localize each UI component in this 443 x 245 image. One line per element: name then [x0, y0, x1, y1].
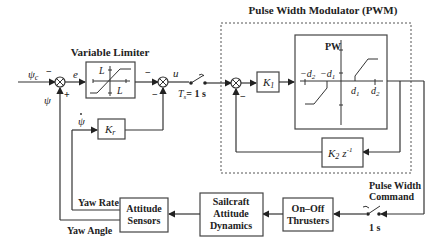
sampler-switch-1	[189, 74, 207, 85]
psi-c-input: ψc −	[28, 66, 52, 82]
summing-junction-1	[55, 77, 65, 87]
kr-block: Kr	[98, 119, 125, 139]
svg-text:Attitude: Attitude	[213, 208, 249, 219]
svg-text:Sensors: Sensors	[128, 215, 161, 226]
svg-text:Attitude: Attitude	[126, 203, 162, 214]
summing-junction-2	[158, 77, 168, 87]
attitude-sensors-block: Attitude Sensors	[120, 198, 168, 232]
sample-time-label: Ts= 1 s	[178, 88, 206, 101]
psi-label: ψ	[44, 94, 51, 106]
e-label: e	[73, 68, 78, 80]
svg-text:PW: PW	[325, 41, 341, 52]
variable-limiter-title: Variable Limiter	[71, 46, 150, 58]
pulse-width-label-2: Command	[369, 191, 414, 202]
svg-text:Thrusters: Thrusters	[287, 215, 329, 226]
minus-sign-2: −	[152, 89, 158, 100]
svg-text:−: −	[46, 66, 52, 77]
svg-text:ψc: ψc	[28, 68, 39, 82]
pulse-width-label-1: Pulse Width	[369, 180, 422, 191]
yaw-rate-label: Yaw Rate	[78, 197, 119, 208]
svg-text:Dynamics: Dynamics	[210, 220, 252, 231]
psi-dot-label: ψ	[78, 115, 85, 127]
switch-2-time: 1 s	[369, 222, 381, 233]
pwm-title: Pulse Width Modulator (PWM)	[249, 4, 398, 17]
on-off-thrusters-block: On–Off Thrusters	[283, 198, 333, 231]
block-diagram: Variable Limiter Pulse Width Modulator (…	[0, 0, 443, 245]
pw-deadzone-block: PW −d2 −d1 d1 d2	[295, 35, 387, 129]
svg-text:On–Off: On–Off	[292, 203, 325, 214]
svg-text:Sailcraft: Sailcraft	[213, 196, 250, 207]
plus-sign: +	[64, 89, 70, 100]
summing-junction-3	[231, 78, 241, 88]
svg-text:L: L	[98, 65, 105, 76]
svg-text:L: L	[116, 85, 123, 96]
sailcraft-dynamics-block: Sailcraft Attitude Dynamics	[200, 193, 263, 236]
variable-limiter-block: L L	[86, 62, 135, 98]
u-label: u	[173, 67, 179, 79]
yaw-angle-label: Yaw Angle	[67, 225, 113, 236]
minus-sign-3: −	[240, 91, 246, 102]
k2-delay-block: K2z-1	[322, 138, 363, 167]
minus-sign: −	[145, 67, 151, 78]
k1-block: K1	[257, 72, 279, 92]
